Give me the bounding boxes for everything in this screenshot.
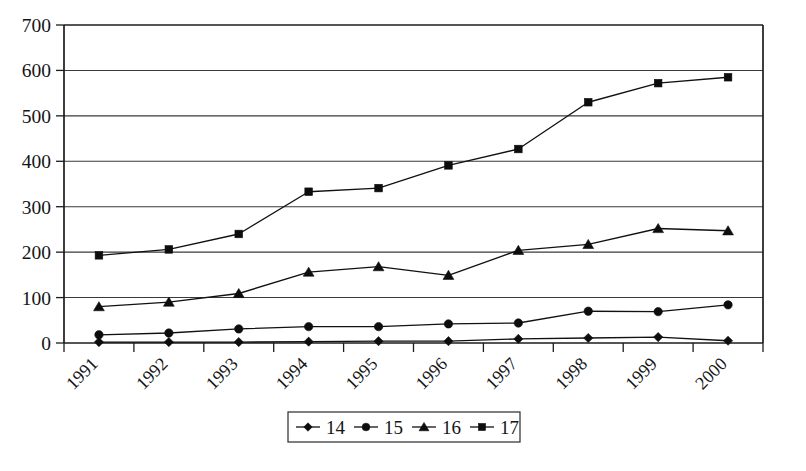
data-point-square xyxy=(95,252,103,260)
y-tick-label: 100 xyxy=(22,288,51,309)
x-tick-label: 2000 xyxy=(691,354,731,394)
legend-label: 14 xyxy=(326,417,346,438)
data-point-circle xyxy=(514,319,522,327)
x-axis-tick-labels: 1991199219931994199519961997199819992000 xyxy=(62,354,731,394)
series-17 xyxy=(95,73,732,259)
data-point-square xyxy=(515,145,523,153)
data-point-circle xyxy=(235,325,243,333)
y-tick-label: 500 xyxy=(22,106,51,127)
y-axis-ticks xyxy=(56,25,64,343)
y-tick-label: 400 xyxy=(22,151,51,172)
data-series-layer xyxy=(94,73,734,346)
data-point-diamond xyxy=(164,337,173,346)
data-point-square xyxy=(584,98,592,106)
data-point-circle xyxy=(95,331,103,339)
data-point-diamond xyxy=(234,337,243,346)
data-point-circle xyxy=(584,307,592,315)
legend-label: 17 xyxy=(500,417,519,438)
data-point-diamond xyxy=(304,337,313,346)
data-point-circle xyxy=(444,320,452,328)
gridlines xyxy=(64,70,763,297)
data-point-square xyxy=(165,246,173,254)
series-line-17 xyxy=(99,77,728,255)
data-point-square xyxy=(445,162,453,170)
data-point-circle xyxy=(362,423,370,431)
y-tick-label: 0 xyxy=(41,333,51,354)
line-chart: 0100200300400500600700 19911992199319941… xyxy=(0,0,806,471)
x-tick-label: 1997 xyxy=(482,354,522,394)
data-point-square xyxy=(305,188,313,196)
series-line-16 xyxy=(99,229,728,307)
y-tick-label: 200 xyxy=(22,242,51,263)
x-tick-label: 1996 xyxy=(412,354,452,394)
legend-label: 15 xyxy=(384,417,403,438)
data-point-diamond xyxy=(584,333,593,342)
axis-lines xyxy=(64,25,763,343)
data-point-diamond xyxy=(723,336,732,345)
data-point-circle xyxy=(374,322,382,330)
data-point-diamond xyxy=(444,337,453,346)
y-tick-label: 300 xyxy=(22,197,51,218)
data-point-square xyxy=(724,73,732,81)
data-point-diamond xyxy=(514,334,523,343)
data-point-square xyxy=(375,184,383,192)
legend-label: 16 xyxy=(442,417,461,438)
x-tick-label: 1998 xyxy=(551,354,591,394)
data-point-circle xyxy=(304,322,312,330)
data-point-square xyxy=(479,424,486,431)
data-point-square xyxy=(235,230,243,238)
y-tick-label: 700 xyxy=(22,15,51,36)
data-point-circle xyxy=(654,307,662,315)
x-tick-label: 1994 xyxy=(272,354,312,394)
x-tick-label: 1999 xyxy=(621,354,661,394)
data-point-triangle xyxy=(233,288,244,297)
data-point-circle xyxy=(724,301,732,309)
x-tick-label: 1993 xyxy=(202,354,242,394)
x-tick-label: 1991 xyxy=(62,354,102,394)
data-point-diamond xyxy=(374,337,383,346)
x-tick-label: 1995 xyxy=(342,354,382,394)
y-axis-tick-labels: 0100200300400500600700 xyxy=(22,15,51,354)
chart-legend: 14151617 xyxy=(288,412,520,442)
data-point-diamond xyxy=(654,332,663,341)
series-15 xyxy=(95,301,733,339)
data-point-square xyxy=(654,79,662,87)
series-line-14 xyxy=(99,337,728,342)
data-point-triangle xyxy=(373,262,384,271)
y-tick-label: 600 xyxy=(22,60,51,81)
x-tick-label: 1992 xyxy=(132,354,172,394)
chart-canvas: 0100200300400500600700 19911992199319941… xyxy=(0,0,806,471)
data-point-circle xyxy=(165,329,173,337)
series-line-15 xyxy=(99,305,728,335)
